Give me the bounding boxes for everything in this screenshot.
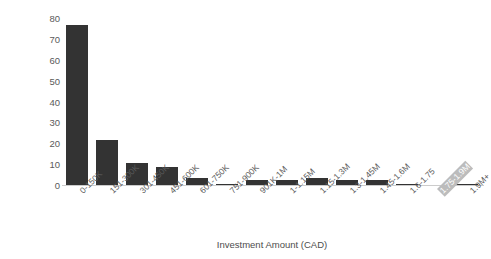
x-axis-tick-slot: 1.15-1.3M (302, 187, 332, 237)
bar-slot[interactable] (182, 19, 212, 186)
bar-slot[interactable] (92, 19, 122, 186)
bar-chart: # investments 01020304050607080 0-150K15… (0, 0, 491, 259)
y-axis-tick: 0 (30, 181, 60, 191)
bar-slot[interactable] (302, 19, 332, 186)
x-axis-tick-slot: 1.45-1.6M (362, 187, 392, 237)
y-axis-tick: 70 (30, 35, 60, 45)
bar-slot[interactable] (272, 19, 302, 186)
x-axis-tick-slot: 1.75-1.9M (422, 187, 452, 237)
x-axis-tick-slot: 751-900K (212, 187, 242, 237)
bar-slot[interactable] (332, 19, 362, 186)
x-axis-tick-slot: 301-450K (122, 187, 152, 237)
bar-slot[interactable] (152, 19, 182, 186)
y-axis-tick: 10 (30, 160, 60, 170)
bar-slot[interactable] (452, 19, 482, 186)
x-axis-tick-labels: 0-150K151-300K301-450K451-600K601-750K75… (62, 187, 482, 237)
x-axis-tick-slot: 1-1.15M (272, 187, 302, 237)
x-axis-tick-slot: 1.3-1.45M (332, 187, 362, 237)
bar-slot[interactable] (422, 19, 452, 186)
x-axis-tick-slot: 1.6-1.75 (392, 187, 422, 237)
bar-slot[interactable] (242, 19, 272, 186)
plot-area (62, 19, 482, 186)
x-axis-tick-slot: 601-750K (182, 187, 212, 237)
bar-slot[interactable] (212, 19, 242, 186)
x-axis-tick-slot: 0-150K (62, 187, 92, 237)
bar-slot[interactable] (122, 19, 152, 186)
x-axis-tick-slot: 151-300K (92, 187, 122, 237)
y-axis-tick: 50 (30, 77, 60, 87)
bar-slot[interactable] (362, 19, 392, 186)
bar-slot[interactable] (392, 19, 422, 186)
y-axis-tick: 60 (30, 56, 60, 66)
x-axis-title: Investment Amount (CAD) (62, 239, 482, 250)
x-axis-tick-slot: 901K-1M (242, 187, 272, 237)
y-axis-tick-labels: 01020304050607080 (26, 0, 60, 259)
y-axis-tick: 30 (30, 118, 60, 128)
x-axis-tick-slot: 451-600K (152, 187, 182, 237)
bar[interactable] (66, 25, 88, 186)
y-axis-tick: 20 (30, 139, 60, 149)
y-axis-tick: 80 (30, 14, 60, 24)
bar-slot[interactable] (62, 19, 92, 186)
x-axis-tick-slot: 1.9M+ (452, 187, 482, 237)
y-axis-tick: 40 (30, 98, 60, 108)
